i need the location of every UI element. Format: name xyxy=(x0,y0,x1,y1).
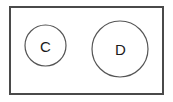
set-label-d: D xyxy=(115,41,126,58)
venn-diagram: C D xyxy=(0,0,173,102)
set-label-c: C xyxy=(40,38,51,55)
diagram-canvas: C D xyxy=(0,0,173,102)
